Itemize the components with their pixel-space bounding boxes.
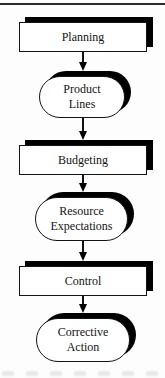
- flowchart-figure: Planning Product Lines Budgeting Resourc…: [0, 0, 165, 378]
- node-control: Control: [19, 266, 147, 296]
- node-corrective-action: Corrective Action: [36, 318, 130, 362]
- node-planning: Planning: [19, 22, 147, 52]
- node-resource-expectations-label-line2: Expectations: [51, 219, 113, 234]
- node-planning-label: Planning: [62, 30, 105, 45]
- node-resource-expectations: Resource Expectations: [35, 197, 128, 241]
- arrow-down-icon: [79, 183, 87, 192]
- node-corrective-action-label-line2: Action: [67, 340, 100, 355]
- node-corrective-action-label-line1: Corrective: [58, 325, 109, 340]
- node-product-lines-label-line1: Product: [63, 82, 100, 97]
- node-product-lines: Product Lines: [39, 76, 125, 118]
- top-rule-divider: [0, 3, 165, 5]
- node-budgeting-label: Budgeting: [58, 153, 108, 168]
- node-control-label: Control: [65, 274, 102, 289]
- arrow-down-icon: [79, 62, 87, 71]
- arrow-down-icon: [79, 252, 87, 261]
- node-product-lines-label-line2: Lines: [69, 97, 96, 112]
- arrow-down-icon: [79, 131, 87, 140]
- node-resource-expectations-label-line1: Resource: [59, 204, 104, 219]
- node-budgeting: Budgeting: [19, 145, 147, 175]
- cropped-text-remnant: [2, 371, 163, 376]
- arrow-down-icon: [79, 304, 87, 313]
- connector-line-product-budgeting: [82, 118, 84, 132]
